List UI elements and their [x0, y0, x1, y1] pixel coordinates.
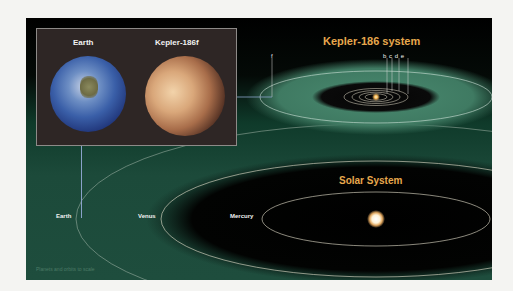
planet-comparison-inset: Earth Kepler-186f: [36, 28, 237, 146]
diagram-panel: Earth Kepler-186f Kepler-186 system f b …: [26, 18, 492, 280]
solar-system-title: Solar System: [339, 175, 402, 186]
earth-orbit-label: Earth: [56, 213, 71, 219]
earth-connector-line: [81, 144, 82, 218]
planets-bcde-label: b c d e: [383, 53, 405, 59]
earth-label: Earth: [73, 38, 93, 47]
venus-orbit-label: Venus: [138, 213, 156, 219]
kepler-186f-label: Kepler-186f: [155, 38, 199, 47]
planet-f-label: f: [271, 53, 273, 59]
mercury-orbit-label: Mercury: [230, 213, 253, 219]
kepler-186f-planet-image: [145, 56, 225, 136]
footnote: Planets and orbits to scale: [36, 266, 95, 272]
earth-planet-image: [50, 56, 126, 132]
kepler-system-title: Kepler-186 system: [323, 35, 420, 47]
